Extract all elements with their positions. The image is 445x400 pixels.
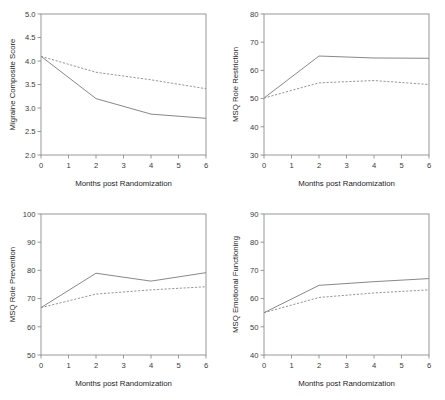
y-tick-label: 90 [250, 210, 258, 219]
y-tick-label: 60 [250, 66, 258, 75]
x-axis-title: Months post Randomization [75, 179, 172, 188]
y-tick-label: 3.5 [25, 80, 36, 89]
y-axis-title: MSQ Role Restriction [231, 47, 240, 122]
x-tick-label: 6 [204, 361, 208, 370]
x-tick-label: 6 [427, 361, 431, 370]
x-tick-label: 6 [204, 161, 208, 170]
x-tick-label: 5 [399, 161, 403, 170]
y-tick-label: 70 [250, 266, 258, 275]
series-line-dashed [264, 290, 429, 313]
y-tick-label: 50 [250, 323, 258, 332]
x-tick-label: 3 [344, 361, 348, 370]
x-tick-label: 6 [427, 161, 431, 170]
y-tick-label: 30 [250, 151, 258, 160]
y-tick-label: 3.0 [25, 104, 36, 113]
series-line-dashed [264, 81, 429, 98]
plot-frame [264, 14, 429, 155]
x-tick-label: 5 [176, 161, 180, 170]
x-tick-label: 0 [39, 361, 43, 370]
y-tick-label: 5.0 [25, 10, 36, 19]
y-tick-label: 2.5 [25, 127, 36, 136]
y-tick-label: 60 [27, 323, 35, 332]
x-tick-label: 2 [94, 361, 98, 370]
y-axis-title: MSQ Role Prevention [8, 247, 17, 322]
panel-svg-0: 2.02.53.03.54.04.55.00123456Months post … [0, 0, 222, 200]
x-axis-title: Months post Randomization [298, 179, 395, 188]
y-tick-label: 70 [27, 294, 35, 303]
series-line-solid [41, 273, 206, 308]
plot-frame [41, 14, 206, 155]
x-tick-label: 1 [66, 161, 70, 170]
x-tick-label: 2 [317, 161, 321, 170]
y-tick-label: 50 [27, 351, 35, 360]
x-tick-label: 0 [262, 361, 266, 370]
y-tick-label: 4.0 [25, 57, 36, 66]
y-axis-title: Migraine Composite Score [8, 39, 17, 131]
series-line-dashed [41, 287, 206, 308]
chart-panel-msq-role-restriction: 3040506070800123456Months post Randomiza… [223, 0, 445, 200]
x-tick-label: 3 [121, 161, 125, 170]
x-tick-label: 2 [317, 361, 321, 370]
panel-svg-2: 50607080901000123456Months post Randomiz… [0, 200, 222, 400]
series-line-solid [264, 56, 429, 98]
y-tick-label: 40 [250, 351, 258, 360]
x-tick-label: 4 [372, 161, 376, 170]
series-line-solid [41, 56, 206, 118]
x-tick-label: 1 [66, 361, 70, 370]
x-tick-label: 5 [399, 361, 403, 370]
chart-panel-msq-emotional-functioning: 4050607080900123456Months post Randomiza… [223, 200, 445, 400]
y-tick-label: 90 [27, 238, 35, 247]
chart-panel-msq-role-prevention: 50607080901000123456Months post Randomiz… [0, 200, 222, 400]
y-tick-label: 80 [250, 238, 258, 247]
x-tick-label: 1 [289, 161, 293, 170]
chart-panel-migraine-composite-score: 2.02.53.03.54.04.55.00123456Months post … [0, 0, 222, 200]
y-tick-label: 2.0 [25, 151, 36, 160]
x-tick-label: 0 [262, 161, 266, 170]
multi-panel-line-chart-figure: 2.02.53.03.54.04.55.00123456Months post … [0, 0, 445, 400]
series-line-dashed [41, 56, 206, 88]
x-tick-label: 4 [149, 361, 153, 370]
y-tick-label: 4.5 [25, 33, 36, 42]
x-tick-label: 1 [289, 361, 293, 370]
panel-svg-1: 3040506070800123456Months post Randomiza… [223, 0, 445, 200]
x-tick-label: 0 [39, 161, 43, 170]
plot-frame [41, 214, 206, 355]
x-axis-title: Months post Randomization [298, 379, 395, 388]
x-tick-label: 3 [121, 361, 125, 370]
x-axis-title: Months post Randomization [75, 379, 172, 388]
y-tick-label: 60 [250, 294, 258, 303]
plot-frame [264, 214, 429, 355]
x-tick-label: 5 [176, 361, 180, 370]
y-tick-label: 70 [250, 38, 258, 47]
y-tick-label: 40 [250, 123, 258, 132]
y-tick-label: 50 [250, 94, 258, 103]
x-tick-label: 4 [372, 361, 376, 370]
y-tick-label: 80 [250, 10, 258, 19]
x-tick-label: 2 [94, 161, 98, 170]
y-tick-label: 100 [23, 210, 36, 219]
x-tick-label: 3 [344, 161, 348, 170]
y-axis-title: MSQ Emotional Functioning [231, 236, 240, 333]
panel-svg-3: 4050607080900123456Months post Randomiza… [223, 200, 445, 400]
y-tick-label: 80 [27, 266, 35, 275]
x-tick-label: 4 [149, 161, 153, 170]
